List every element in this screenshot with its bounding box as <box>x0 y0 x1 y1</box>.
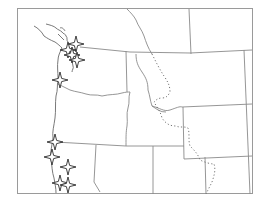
border-id-mt <box>127 9 152 54</box>
border-wa-id <box>126 51 127 92</box>
border-canada <box>80 47 252 53</box>
star-marker-icon[interactable] <box>44 149 60 165</box>
map-canvas[interactable] <box>0 0 266 208</box>
star-marker-icon[interactable] <box>47 134 63 150</box>
star-marker-icon[interactable] <box>60 177 76 193</box>
border-id-west <box>136 54 166 112</box>
border-or-id <box>126 92 130 146</box>
border-ab-sk <box>189 9 191 54</box>
border-ca-nv <box>94 145 100 192</box>
star-marker-icon[interactable] <box>52 72 68 88</box>
coastline <box>34 26 62 193</box>
map-frame <box>18 9 253 194</box>
border-or-ca-nv <box>55 142 184 146</box>
border-id-mt-south <box>152 106 182 111</box>
map-container <box>0 0 266 208</box>
star-marker-icon[interactable] <box>52 175 68 191</box>
border-mt-nd <box>244 50 250 194</box>
border-wyoming <box>182 104 252 159</box>
markers <box>44 36 85 193</box>
border-wa-or <box>58 84 130 96</box>
star-marker-icon[interactable] <box>60 159 76 175</box>
